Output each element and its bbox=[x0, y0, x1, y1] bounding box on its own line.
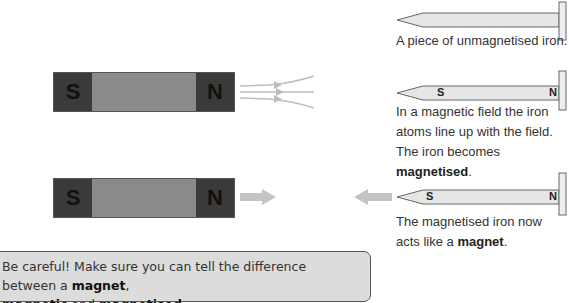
south-pole: S bbox=[54, 179, 92, 217]
nail-3-caption: The magnetised iron now acts like a magn… bbox=[396, 212, 542, 252]
south-pole: S bbox=[54, 73, 92, 111]
nail-1-caption: A piece of unmagnetised iron. bbox=[396, 31, 567, 51]
nail-3-north-label: N bbox=[549, 190, 557, 202]
north-pole: N bbox=[196, 179, 234, 217]
field-lines-icon bbox=[238, 74, 318, 110]
arrow-left-icon bbox=[352, 189, 392, 205]
bar-magnet-2: S N bbox=[53, 178, 235, 218]
arrow-right-icon bbox=[240, 189, 280, 205]
caption-line: atoms line up with the field. bbox=[396, 122, 569, 142]
nail-2-caption: In a magnetic field the iron atoms line … bbox=[396, 102, 569, 182]
nail-2-north-label: N bbox=[549, 86, 557, 98]
caption-line: In a magnetic field the iron bbox=[396, 102, 569, 122]
caption-line: acts like a magnet. bbox=[396, 232, 542, 252]
nail-2-south-label: S bbox=[437, 86, 444, 98]
nail-3-south-label: S bbox=[426, 190, 433, 202]
bar-magnet-1: S N bbox=[53, 72, 235, 112]
north-pole: N bbox=[196, 73, 234, 111]
warning-callout: Be careful! Make sure you can tell the d… bbox=[0, 251, 371, 302]
caption-line: The magnetised iron now bbox=[396, 212, 542, 232]
